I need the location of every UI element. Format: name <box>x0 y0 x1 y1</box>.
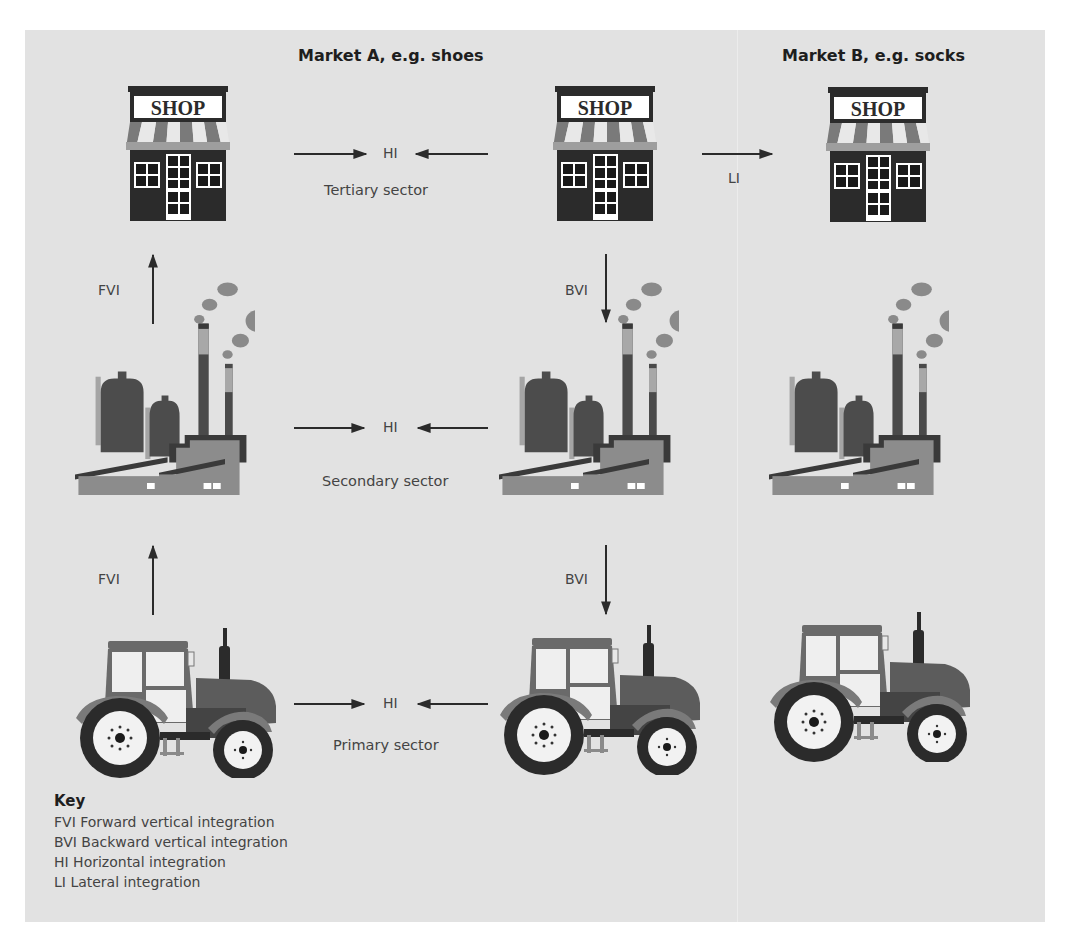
secondary-sector-label: Secondary sector <box>322 473 448 489</box>
fvi-label-lower: FVI <box>98 571 120 587</box>
hi-label-secondary: HI <box>383 419 398 435</box>
key-item-li: LI Lateral integration <box>54 872 200 892</box>
fvi-label-upper: FVI <box>98 282 120 298</box>
bvi-label-upper: BVI <box>565 282 588 298</box>
integration-arrows <box>0 0 1075 942</box>
key-item-hi: HI Horizontal integration <box>54 852 226 872</box>
tertiary-sector-label: Tertiary sector <box>324 182 428 198</box>
key-title: Key <box>54 792 85 810</box>
primary-sector-label: Primary sector <box>333 737 439 753</box>
key-item-bvi: BVI Backward vertical integration <box>54 832 288 852</box>
li-label: LI <box>728 170 740 186</box>
key-item-fvi: FVI Forward vertical integration <box>54 812 275 832</box>
hi-label-primary: HI <box>383 695 398 711</box>
hi-label-tertiary: HI <box>383 145 398 161</box>
bvi-label-lower: BVI <box>565 571 588 587</box>
